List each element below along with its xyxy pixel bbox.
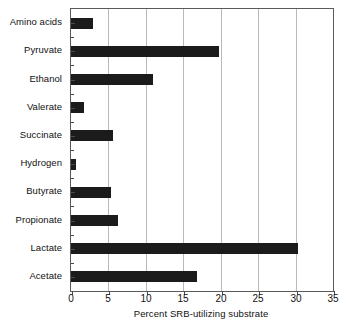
y-tick-mark-minor (71, 178, 74, 179)
y-tick-mark-minor (71, 65, 74, 66)
y-tick-mark (71, 249, 75, 250)
category-label-pyruvate: Pyruvate (0, 45, 62, 55)
category-label-hydrogen: Hydrogen (0, 158, 62, 168)
category-label-ethanol: Ethanol (0, 74, 62, 84)
category-label-amino-acids: Amino acids (0, 17, 62, 27)
y-tick-mark (71, 23, 75, 24)
y-tick-mark-minor (71, 94, 74, 95)
y-tick-mark-minor (71, 263, 74, 264)
bar-chart-figure: Amino acidsPyruvateEthanolValerateSuccin… (0, 0, 344, 330)
bar (71, 74, 153, 85)
y-tick-mark (71, 108, 75, 109)
category-label-butyrate: Butyrate (0, 186, 62, 196)
y-tick-mark (71, 192, 75, 193)
category-label-propionate: Propionate (0, 215, 62, 225)
y-tick-mark (71, 80, 75, 81)
y-tick-mark (71, 277, 75, 278)
y-tick-mark (71, 51, 75, 52)
category-axis-labels: Amino acidsPyruvateEthanolValerateSuccin… (0, 8, 66, 290)
y-tick-mark (71, 164, 75, 165)
bar (71, 215, 118, 226)
category-label-acetate: Acetate (0, 271, 62, 281)
x-tick-label-35: 35 (318, 293, 344, 304)
x-axis-title: Percent SRB-utilizing substrate (70, 308, 332, 319)
y-tick-mark-minor (71, 235, 74, 236)
category-label-valerate: Valerate (0, 102, 62, 112)
plot-inner (71, 9, 333, 291)
bar (71, 130, 113, 141)
x-tick-label-0: 0 (56, 293, 86, 304)
category-label-succinate: Succinate (0, 130, 62, 140)
y-tick-mark (71, 136, 75, 137)
y-tick-mark-minor (71, 150, 74, 151)
y-tick-mark-minor (71, 122, 74, 123)
x-tick-label-25: 25 (243, 293, 273, 304)
x-tick-label-10: 10 (131, 293, 161, 304)
y-tick-mark (71, 221, 75, 222)
y-tick-mark-minor (71, 206, 74, 207)
y-tick-mark-minor (71, 37, 74, 38)
category-label-lactate: Lactate (0, 243, 62, 253)
bar (71, 187, 111, 198)
x-tick-label-30: 30 (281, 293, 311, 304)
x-tick-label-15: 15 (168, 293, 198, 304)
bar (71, 271, 197, 282)
bar (71, 46, 219, 57)
plot-area (70, 8, 334, 292)
x-tick-label-5: 5 (93, 293, 123, 304)
bar (71, 243, 298, 254)
x-tick-label-20: 20 (206, 293, 236, 304)
